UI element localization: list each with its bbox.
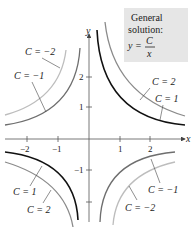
label-top-left-c-neg2: C = −2: [25, 46, 55, 57]
x-tick-neg1: −1: [52, 144, 62, 154]
x-tick-1: 1: [118, 144, 123, 154]
hyperbola-family-graph: General solution: y = C x x y −2 −1 1 2 …: [0, 0, 191, 227]
y-tick-1: 1: [79, 102, 84, 112]
label-bottom-right-c-neg1: C = −1: [148, 184, 178, 195]
label-top-right-c-2: C = 2: [152, 76, 175, 87]
box-line-1: General: [131, 12, 163, 23]
label-bottom-left-c-1: C = 1: [13, 186, 36, 197]
label-top-right-c-1: C = 1: [155, 93, 178, 104]
y-tick-neg1: −1: [74, 165, 84, 175]
box-denominator: x: [146, 48, 152, 59]
y-axis-label: y: [85, 25, 91, 36]
x-tick-neg2: −2: [20, 144, 30, 154]
box-line-2: solution:: [128, 24, 163, 35]
curve-c-neg2-q2: [5, 50, 66, 115]
label-bottom-right-c-neg2: C = −2: [125, 202, 155, 213]
general-solution-box: General solution: y = C x: [124, 8, 188, 62]
curve-c-neg1-q2: [5, 48, 80, 125]
box-numerator: C: [146, 35, 153, 46]
curve-labels: C = −2 C = −1 C = 2 C = 1 C = 1 C = 2 C …: [13, 46, 178, 215]
y-tick-2: 2: [79, 72, 84, 82]
x-axis-label: x: [185, 133, 191, 144]
label-top-left-c-neg1: C = −1: [14, 70, 44, 81]
x-tick-2: 2: [148, 144, 153, 154]
label-bottom-left-c-2: C = 2: [27, 204, 50, 215]
box-lhs: y =: [127, 40, 142, 51]
